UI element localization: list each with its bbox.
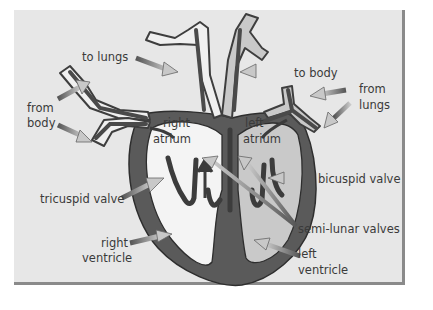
label-semi-lunar-valves: semi-lunar valves: [298, 222, 400, 236]
label-from-lungs-line2: lungs: [359, 98, 390, 112]
label-right-atrium-line1: right: [163, 116, 190, 130]
label-left-atrium-line2: atrium: [243, 132, 281, 146]
label-to-lungs: to lungs: [82, 50, 128, 64]
label-from-body-line2: body: [27, 116, 55, 130]
label-tricuspid-valve: tricuspid valve: [40, 192, 124, 206]
arrow-to-body: [240, 64, 286, 78]
label-left-atrium-line1: left: [245, 116, 264, 130]
label-from-lungs-line1: from: [359, 82, 386, 96]
arrow-from-lungs-lower: [324, 103, 350, 128]
label-left-ventricle-line2: ventricle: [298, 263, 348, 277]
label-right-atrium-line2: atrium: [153, 132, 191, 146]
label-right-ventricle-line1: right: [96, 236, 128, 250]
label-right-ventricle-line2: ventricle: [82, 251, 132, 265]
label-bicuspid-valve: bicuspid valve: [318, 172, 400, 186]
arrow-to-lungs: [136, 58, 178, 76]
label-from-body-line1: from: [27, 101, 54, 115]
label-to-body: to body: [294, 66, 338, 80]
arrow-from-lungs-upper: [310, 87, 346, 100]
heart-diagram: [0, 0, 433, 310]
label-left-ventricle-line1: left: [298, 247, 317, 261]
arrow-from-body-lower: [58, 125, 92, 142]
